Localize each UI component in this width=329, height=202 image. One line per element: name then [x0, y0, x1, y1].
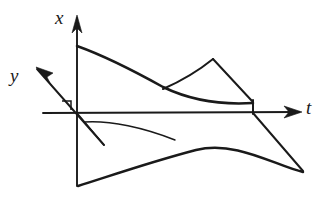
y-axis-label: y — [10, 66, 18, 85]
y-axis-extension-below — [77, 113, 104, 145]
x-axis-label: x — [55, 8, 63, 27]
axes-group — [37, 18, 299, 186]
lower-outer-curve — [78, 148, 303, 186]
right-descending-ray — [253, 113, 303, 171]
curves-group — [77, 46, 303, 186]
arrowheads-group — [36, 15, 302, 118]
y-axis-arrowhead — [36, 67, 53, 85]
upper-branch-falling — [213, 59, 252, 101]
figure-canvas — [0, 0, 329, 202]
t-axis-label: t — [306, 98, 311, 117]
t-axis-line — [43, 112, 299, 113]
figure-root: x y t — [0, 0, 329, 202]
upper-branch-rising — [163, 59, 213, 89]
